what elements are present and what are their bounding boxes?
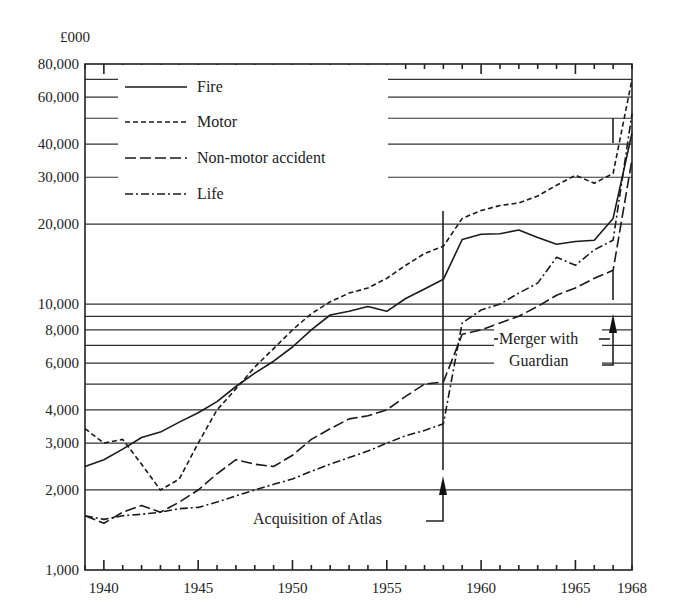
x-tick-label: 1945 [183, 580, 213, 596]
x-tick-label: 1950 [277, 580, 307, 596]
y-axis-unit-label: £000 [60, 29, 90, 45]
x-tick-label: 1955 [372, 580, 402, 596]
insurance-premiums-chart: 19401945195019551960196519681,0002,0003,… [0, 0, 675, 614]
merger-label-line1: Merger with [499, 330, 578, 348]
legend-label-non-motor: Non-motor accident [197, 149, 326, 166]
y-tick-label: 10,000 [38, 296, 79, 312]
y-tick-label: 40,000 [38, 136, 79, 152]
y-tick-label: 20,000 [38, 216, 79, 232]
legend-label-life: Life [197, 185, 224, 202]
legend-label-fire: Fire [197, 78, 223, 95]
merger-label-line2: Guardian [509, 352, 569, 369]
y-tick-label: 8,000 [45, 322, 79, 338]
y-tick-label: 4,000 [45, 402, 79, 418]
y-tick-label: 80,000 [38, 56, 79, 72]
y-tick-label: 6,000 [45, 355, 79, 371]
y-tick-label: 2,000 [45, 482, 79, 498]
y-tick-label: 30,000 [38, 169, 79, 185]
acquisition-leader-line [426, 495, 443, 521]
acquisition-label: Acquisition of Atlas [253, 510, 382, 528]
y-tick-label: 3,000 [45, 435, 79, 451]
x-tick-label: 1960 [466, 580, 496, 596]
x-tick-label: 1965 [560, 580, 590, 596]
y-tick-label: 60,000 [38, 89, 79, 105]
legend-label-motor: Motor [197, 113, 238, 130]
x-tick-label: 1968 [617, 580, 647, 596]
acquisition-arrow-icon [439, 476, 447, 495]
legend: Fire Motor Non-motor accident Life [118, 65, 388, 215]
y-tick-label: 1,000 [45, 562, 79, 578]
x-tick-label: 1940 [89, 580, 119, 596]
